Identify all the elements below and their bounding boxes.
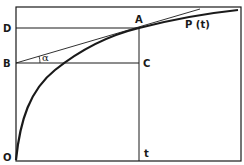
label-B: B [3, 58, 11, 69]
angle-arc [39, 56, 40, 63]
label-t: t [144, 148, 149, 159]
label-C: C [143, 58, 150, 69]
label-D: D [3, 23, 11, 34]
tangent-diagram: D B O A C t P (t) α [0, 0, 244, 165]
curve-P [16, 10, 238, 160]
label-alpha: α [42, 52, 49, 63]
label-A: A [135, 14, 143, 25]
label-curve: P (t) [185, 19, 210, 30]
label-O: O [3, 152, 12, 163]
